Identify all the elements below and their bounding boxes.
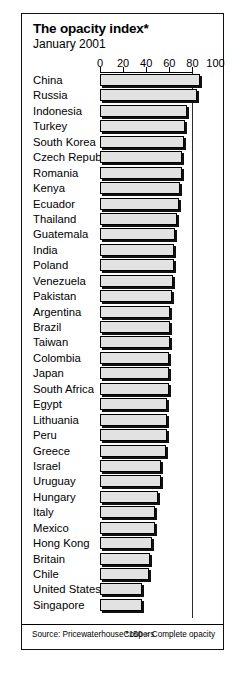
bar bbox=[100, 213, 177, 225]
bar bbox=[100, 336, 170, 348]
bar-row: Greece bbox=[22, 444, 223, 459]
bar-row: India bbox=[22, 243, 223, 258]
bar-container bbox=[100, 568, 149, 581]
plot-area: 020406080100 ChinaRussiaIndonesiaTurkeyS… bbox=[22, 57, 223, 627]
chart-header: The opacity index* January 2001 bbox=[33, 21, 213, 51]
bar bbox=[100, 89, 197, 101]
category-label: Russia bbox=[33, 88, 68, 103]
bar bbox=[100, 306, 170, 318]
footnote-label: *150 = Complete opacity bbox=[126, 627, 215, 643]
bar-container bbox=[100, 167, 182, 180]
category-label: Ecuador bbox=[33, 197, 75, 212]
bar-container bbox=[100, 136, 184, 149]
x-tick-mark-40 bbox=[146, 67, 147, 73]
bar bbox=[100, 414, 167, 426]
category-label: Lithuania bbox=[33, 413, 79, 428]
bar-row: Chile bbox=[22, 567, 223, 582]
bar bbox=[100, 383, 169, 395]
category-label: Colombia bbox=[33, 351, 81, 366]
bar-container bbox=[100, 414, 167, 427]
category-label: Argentina bbox=[33, 305, 81, 320]
bar-container bbox=[100, 89, 197, 102]
category-label: Taiwan bbox=[33, 335, 68, 350]
bar-container bbox=[100, 398, 167, 411]
bar-row: Argentina bbox=[22, 305, 223, 320]
category-label: Chile bbox=[33, 567, 59, 582]
bar bbox=[100, 506, 155, 518]
bar-row: Kenya bbox=[22, 181, 223, 196]
bar bbox=[100, 475, 161, 487]
category-label: Kenya bbox=[33, 181, 65, 196]
bar-container bbox=[100, 290, 172, 303]
bar bbox=[100, 352, 169, 364]
category-label: Turkey bbox=[33, 119, 67, 134]
category-label: Italy bbox=[33, 505, 54, 520]
category-label: Japan bbox=[33, 366, 64, 381]
category-label: Romania bbox=[33, 166, 78, 181]
bar-row: Guatemala bbox=[22, 227, 223, 242]
category-label: Peru bbox=[33, 428, 57, 443]
bar-row: Italy bbox=[22, 505, 223, 520]
category-label: India bbox=[33, 243, 58, 258]
x-tick-mark-20 bbox=[123, 67, 124, 73]
bar bbox=[100, 74, 200, 86]
x-tick-mark-0 bbox=[100, 67, 101, 73]
bar-row: Hungary bbox=[22, 490, 223, 505]
bar-container bbox=[100, 151, 182, 164]
category-label: Israel bbox=[33, 459, 61, 474]
bar bbox=[100, 151, 182, 163]
category-label: Poland bbox=[33, 258, 68, 273]
bar-container bbox=[100, 275, 173, 288]
bar-row: Russia bbox=[22, 88, 223, 103]
bar bbox=[100, 136, 184, 148]
bar-row: Brazil bbox=[22, 320, 223, 335]
bar-row: China bbox=[22, 73, 223, 88]
category-label: Guatemala bbox=[33, 227, 88, 242]
bar-row: Peru bbox=[22, 428, 223, 443]
bar-row: Singapore bbox=[22, 598, 223, 613]
category-label: Hungary bbox=[33, 490, 76, 505]
bar-container bbox=[100, 352, 169, 365]
x-tick-mark-80 bbox=[192, 67, 193, 73]
bar-rows: ChinaRussiaIndonesiaTurkeySouth KoreaCze… bbox=[22, 73, 223, 613]
footer-divider bbox=[22, 624, 223, 625]
bar-container bbox=[100, 244, 174, 257]
bar bbox=[100, 568, 149, 580]
category-label: Hong Kong bbox=[33, 536, 90, 551]
bar-row: Pakistan bbox=[22, 289, 223, 304]
bar-container bbox=[100, 336, 170, 349]
bar-row: Uruguay bbox=[22, 474, 223, 489]
bar bbox=[100, 228, 175, 240]
bar bbox=[100, 182, 180, 194]
bar-row: Japan bbox=[22, 366, 223, 381]
bar bbox=[100, 429, 167, 441]
bar bbox=[100, 244, 174, 256]
bar-row: Thailand bbox=[22, 212, 223, 227]
bar-row: South Korea bbox=[22, 135, 223, 150]
bar-row: Lithuania bbox=[22, 413, 223, 428]
category-label: Venezuela bbox=[33, 274, 86, 289]
bar-container bbox=[100, 537, 152, 550]
bar-container bbox=[100, 182, 180, 195]
bar-row: Ecuador bbox=[22, 197, 223, 212]
bar bbox=[100, 167, 182, 179]
bar-row: Venezuela bbox=[22, 274, 223, 289]
bar-container bbox=[100, 599, 142, 612]
bar-container bbox=[100, 213, 177, 226]
bar bbox=[100, 259, 174, 271]
bar-container bbox=[100, 553, 150, 566]
bar bbox=[100, 491, 158, 503]
bar-row: United States bbox=[22, 582, 223, 597]
bar-container bbox=[100, 198, 179, 211]
bar-container bbox=[100, 74, 200, 87]
bar-container bbox=[100, 259, 174, 272]
bar bbox=[100, 275, 173, 287]
bar-row: Indonesia bbox=[22, 104, 223, 119]
bar bbox=[100, 105, 187, 117]
category-label: Pakistan bbox=[33, 289, 76, 304]
bar bbox=[100, 522, 155, 534]
bar-row: Hong Kong bbox=[22, 536, 223, 551]
bar-container bbox=[100, 120, 185, 133]
bar-row: Britain bbox=[22, 552, 223, 567]
x-tick-label-100: 100 bbox=[206, 57, 224, 70]
